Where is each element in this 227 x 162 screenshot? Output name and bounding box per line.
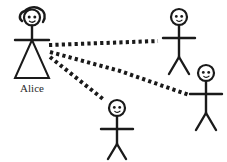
alice-label: Alice xyxy=(20,82,44,94)
figure-person-right[interactable] xyxy=(190,65,222,130)
connection-lines xyxy=(49,41,189,99)
alice-eye-right-icon xyxy=(33,16,36,19)
person-top-right-leg-left xyxy=(169,57,179,74)
person-right-leg-right xyxy=(206,113,216,130)
figure-person-bottom[interactable] xyxy=(101,100,133,159)
person-top-right-leg-right xyxy=(179,57,189,74)
person-right-eye-right-icon xyxy=(207,71,210,74)
person-top-right-eye-right-icon xyxy=(180,15,183,18)
diagram-canvas: Alice xyxy=(0,0,227,162)
person-top-right-head xyxy=(171,9,187,25)
person-bottom-leg-right xyxy=(117,144,126,159)
stick-figure-diagram: Alice xyxy=(0,0,227,162)
connection-alice-to-top-right xyxy=(49,41,158,45)
alice-eye-left-icon xyxy=(28,16,31,19)
person-right-head xyxy=(198,65,214,81)
alice-head xyxy=(24,10,40,26)
person-right-eye-left-icon xyxy=(202,71,205,74)
figure-person-top-right[interactable] xyxy=(163,9,195,74)
person-bottom-head xyxy=(109,100,125,116)
alice-dress xyxy=(15,40,49,78)
figure-alice[interactable]: Alice xyxy=(15,7,49,94)
person-right-leg-left xyxy=(196,113,206,130)
person-top-right-eye-left-icon xyxy=(175,15,178,18)
person-bottom-eye-left-icon xyxy=(113,106,116,109)
person-bottom-eye-right-icon xyxy=(118,106,121,109)
person-bottom-leg-left xyxy=(108,144,117,159)
